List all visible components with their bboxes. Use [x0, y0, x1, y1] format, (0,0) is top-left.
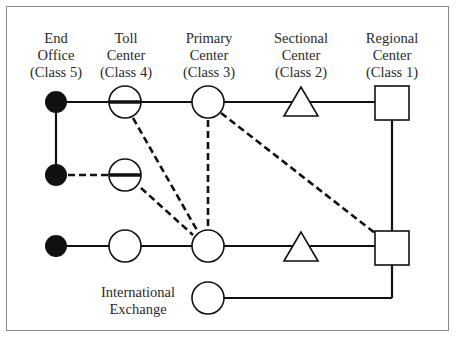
- regional-center-node-2: [375, 231, 409, 265]
- toll-center-node-3: [109, 230, 141, 262]
- hierarchy-diagram: [0, 0, 456, 340]
- end-office-node-3: [45, 235, 67, 257]
- dashed-toll2-to-primary: [141, 188, 193, 235]
- primary-center-node-1: [192, 86, 224, 118]
- international-exchange-node: [192, 282, 224, 314]
- primary-center-node-2: [192, 230, 224, 262]
- dashed-primary-to-regional: [221, 113, 375, 233]
- end-office-node-2: [45, 164, 67, 186]
- end-office-node-1: [45, 91, 67, 113]
- dashed-toll1-to-primary: [133, 118, 198, 232]
- regional-center-node-1: [375, 86, 409, 120]
